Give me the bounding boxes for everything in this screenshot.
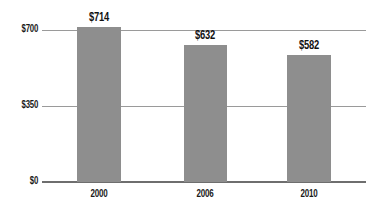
bar-value-label-2000: $714 <box>76 10 123 24</box>
x-tick-label-2006: 2006 <box>181 188 229 199</box>
bar-chart: $700 $350 $0 $714 $632 $582 2000 2006 20… <box>0 0 386 213</box>
x-tick-label-2010: 2010 <box>285 188 333 199</box>
bar-value-label-2006: $632 <box>182 28 229 42</box>
x-tick-label-2000: 2000 <box>75 188 123 199</box>
bar-2006 <box>184 45 227 182</box>
bar-2000 <box>77 27 121 182</box>
bar-2010 <box>287 55 331 182</box>
y-tick-label-350: $350 <box>8 99 38 110</box>
bar-value-label-2010: $582 <box>286 38 333 52</box>
y-tick-label-700: $700 <box>8 23 38 34</box>
y-tick-label-0: $0 <box>8 175 38 186</box>
